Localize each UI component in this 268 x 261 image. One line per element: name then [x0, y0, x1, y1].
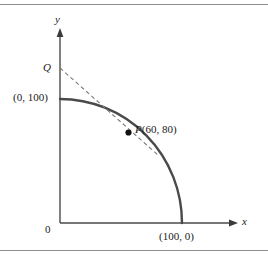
point-q-label: Q — [43, 62, 51, 73]
point-p-name: P — [135, 123, 142, 135]
y-axis — [57, 28, 64, 223]
tangent-dashed-line — [60, 68, 158, 155]
point-p-label: P(60, 80) — [135, 124, 177, 135]
point-p-marker — [125, 129, 131, 135]
origin-label: 0 — [45, 224, 51, 235]
y-intercept-label: (0, 100) — [13, 92, 48, 103]
point-p-coords: (60, 80) — [142, 123, 177, 135]
figure-container: y x Q 0 (0, 100) (100, 0) P(60, 80) — [0, 0, 268, 261]
quarter-circle-curve — [60, 99, 182, 223]
x-intercept-label: (100, 0) — [159, 231, 194, 242]
plot-canvas — [0, 0, 268, 261]
y-axis-label: y — [55, 14, 60, 25]
x-axis — [60, 220, 238, 227]
x-axis-label: x — [242, 216, 247, 227]
